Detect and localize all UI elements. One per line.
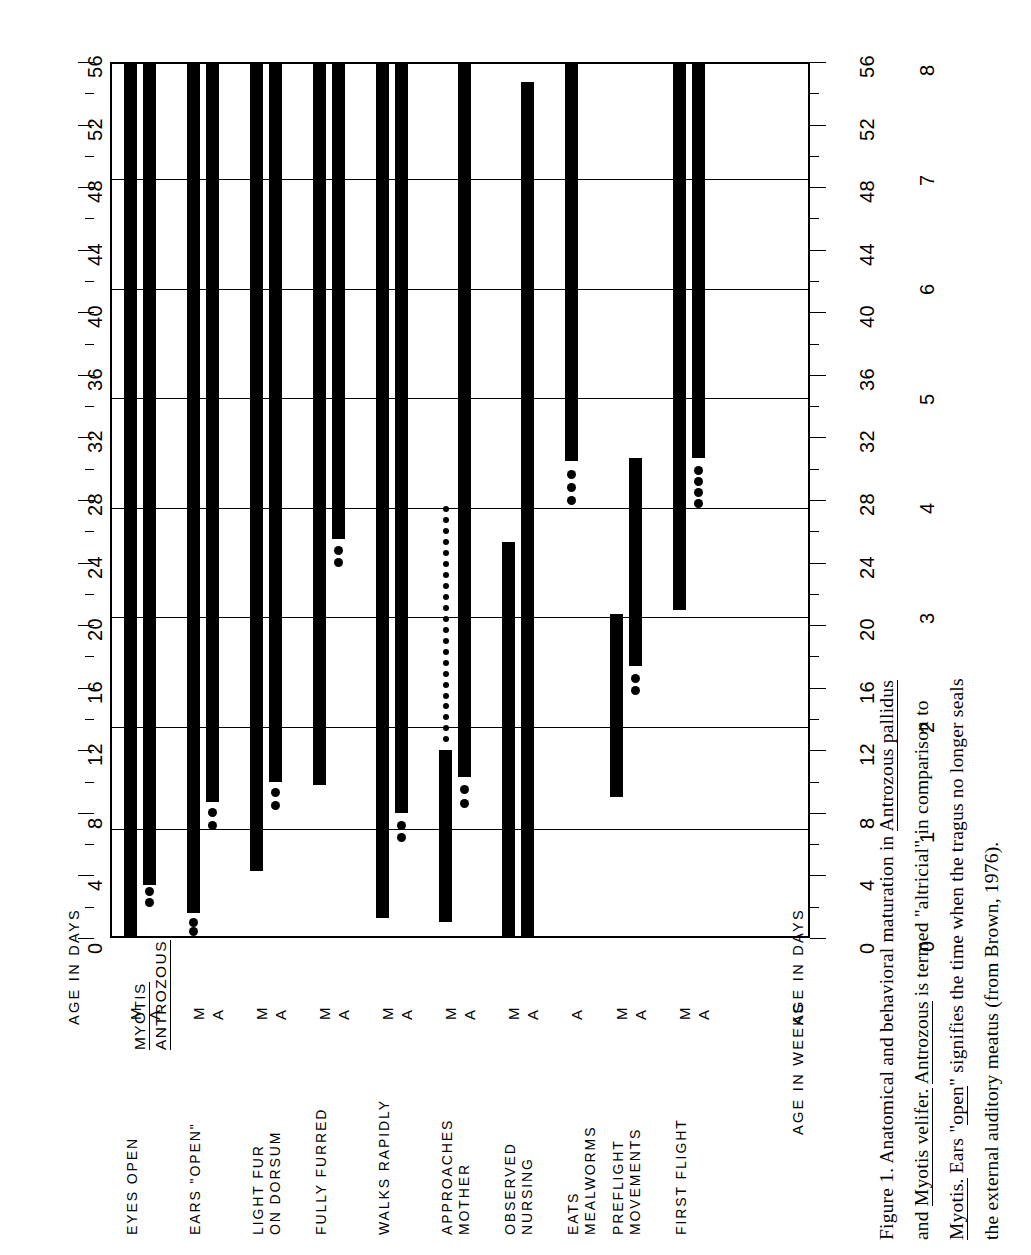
- axis-tick-minor: [810, 156, 819, 157]
- axis-tick-major: [810, 938, 826, 939]
- axis-tick-label-days: 8: [84, 817, 107, 829]
- axis-tick-minor: [85, 156, 94, 157]
- axis-tick-label-days: 16: [84, 680, 107, 703]
- species-marker-m: M: [253, 1007, 270, 1021]
- bar-a: [395, 62, 408, 813]
- bar-taper-dot: [694, 499, 703, 508]
- figure-caption: Figure 1. Anatomical and behavioral matu…: [862, 0, 1031, 1255]
- axis-tick-minor: [85, 656, 94, 657]
- axis-tick-minor: [810, 907, 819, 908]
- bar-m: [610, 614, 623, 797]
- axis-tick-major: [810, 875, 826, 876]
- axis-tick-minor: [85, 344, 94, 345]
- bar-m: [502, 542, 515, 938]
- category-label: PREFLIGHT: [610, 1139, 626, 1235]
- bar-taper-dot: [443, 725, 449, 731]
- axis-tick-major: [810, 312, 826, 313]
- bar-taper-dot: [460, 799, 469, 808]
- bar-taper-dot: [271, 788, 280, 797]
- bar-taper-dot: [460, 785, 469, 794]
- category-label: APPROACHES: [439, 1119, 455, 1235]
- category-label: MOVEMENTS: [627, 1128, 643, 1235]
- bar-taper-dot: [443, 616, 449, 622]
- species-marker-a: A: [461, 1009, 478, 1020]
- axis-tick-minor: [810, 531, 819, 532]
- bar-taper-dot: [443, 649, 449, 655]
- axis-tick-major: [810, 125, 826, 126]
- species-marker-a: A: [272, 1009, 289, 1020]
- axis-tick-major: [810, 375, 826, 376]
- bar-a: [332, 62, 345, 539]
- axis-tick-minor: [85, 907, 94, 908]
- species-marker-m: M: [379, 1007, 396, 1021]
- species-marker-a: A: [632, 1009, 649, 1020]
- category-label: MEALWORMS: [582, 1126, 598, 1235]
- species-marker-a: A: [568, 1009, 585, 1020]
- category-label: EYES OPEN: [124, 1137, 140, 1235]
- bar-taper-dot: [443, 638, 449, 644]
- axis-tick-major: [810, 625, 826, 626]
- axis-tick-minor: [85, 406, 94, 407]
- caption-line: the external auditory meatus (from Brown…: [981, 842, 1003, 1240]
- figure-plate: 048121620242832364044485256 048121620242…: [0, 0, 860, 1255]
- bar-a: [458, 62, 471, 777]
- species-marker-a: A: [335, 1009, 352, 1020]
- bar-taper-dot: [443, 550, 449, 556]
- chart-plot-area: [110, 62, 810, 938]
- species-marker-m: M: [613, 1007, 630, 1021]
- axis-tick-minor: [85, 594, 94, 595]
- axis-tick-minor: [810, 719, 819, 720]
- axis-tick-label-days: 4: [84, 880, 107, 892]
- species-marker-m: M: [190, 1007, 207, 1021]
- bar-a: [269, 62, 282, 782]
- category-label: ON DORSUM: [267, 1131, 283, 1235]
- axis-tick-label-days: 48: [84, 180, 107, 203]
- axis-tick-major: [810, 688, 826, 689]
- bar-taper-dot: [443, 605, 449, 611]
- category-label: FIRST FLIGHT: [673, 1118, 689, 1235]
- axis-tick-major: [810, 813, 826, 814]
- axis-tick-major: [810, 62, 826, 63]
- axis-tick-minor: [85, 531, 94, 532]
- axis-tick-major: [810, 750, 826, 751]
- bar-taper-dot: [443, 561, 449, 567]
- axis-tick-major: [810, 250, 826, 251]
- bar-taper-dot: [443, 572, 449, 578]
- category-label: LIGHT FUR: [250, 1144, 266, 1235]
- axis-tick-label-days: 12: [84, 743, 107, 766]
- axis-tick-major: [78, 875, 94, 876]
- bar-m: [313, 62, 326, 785]
- caption-line: and Myotis velifer. Antrozous is termed …: [911, 700, 933, 1240]
- bar-taper-dot: [694, 477, 703, 486]
- axis-tick-minor: [810, 844, 819, 845]
- bar-taper-dot: [145, 887, 154, 896]
- bar-taper-dot: [443, 594, 449, 600]
- bar-taper-dot: [443, 627, 449, 633]
- bar-m: [376, 62, 389, 918]
- axis-tick-minor: [85, 93, 94, 94]
- axis-tick-label-days: 32: [84, 430, 107, 453]
- axis-tick-minor: [85, 844, 94, 845]
- bar-taper-dot: [567, 496, 576, 505]
- bar-taper-dot: [443, 517, 449, 523]
- category-label: EARS "OPEN": [187, 1122, 203, 1235]
- axis-tick-major: [78, 813, 94, 814]
- legend-antrozous-text: ANTROZOUS: [152, 940, 171, 1050]
- bar-taper-dot: [189, 918, 198, 927]
- axis-name-weeks-right: AGE IN WEEKS: [790, 1002, 806, 1135]
- bar-taper-dot: [334, 558, 343, 567]
- bar-a: [565, 62, 578, 461]
- bar-a: [692, 62, 705, 458]
- category-label: OBSERVED: [502, 1142, 518, 1235]
- species-marker-a: A: [146, 1009, 163, 1020]
- axis-tick-label-days: 52: [84, 117, 107, 140]
- bar-taper-dot: [443, 660, 449, 666]
- bar-a: [206, 62, 219, 802]
- axis-tick-label-days: 20: [84, 618, 107, 641]
- bar-taper-dot: [334, 546, 343, 555]
- bar-taper-dot: [443, 714, 449, 720]
- species-marker-m: M: [442, 1007, 459, 1021]
- category-label: WALKS RAPIDLY: [376, 1099, 392, 1235]
- axis-tick-minor: [810, 782, 819, 783]
- bar-taper-dot: [145, 898, 154, 907]
